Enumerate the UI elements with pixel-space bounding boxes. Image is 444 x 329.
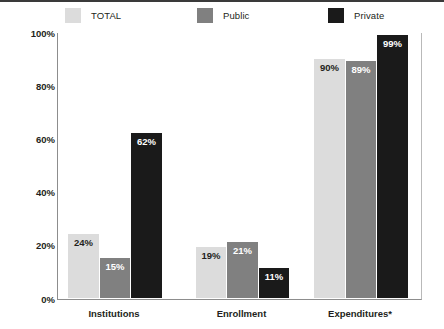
y-tick-label: 0% [0, 293, 55, 304]
legend-label-public: Public [223, 10, 249, 21]
bar-public-enrollment: 21% [227, 242, 258, 298]
bar-value-label: 62% [131, 136, 162, 147]
legend-item-private: Private [328, 7, 384, 23]
legend-swatch-private-icon [328, 8, 344, 23]
bar-value-label: 89% [346, 64, 377, 75]
x-tick-label: Expenditures* [328, 308, 392, 319]
bar-total-institutions: 24% [68, 234, 99, 298]
legend-label-total: TOTAL [91, 10, 121, 21]
y-tick-label: 80% [0, 81, 55, 92]
chart-legend: TOTAL Public Private [65, 7, 365, 25]
legend-label-private: Private [354, 10, 384, 21]
x-tick-label: Enrollment [217, 308, 267, 319]
bar-value-label: 24% [68, 237, 99, 248]
bar-private-enrollment: 11% [259, 268, 290, 297]
bar-value-label: 11% [259, 271, 290, 282]
plot-area: 24%15%62%19%21%11%90%89%99% [57, 33, 422, 300]
y-tick-label: 40% [0, 187, 55, 198]
bar-value-label: 90% [314, 62, 345, 73]
y-tick-label: 20% [0, 240, 55, 251]
top-rule [0, 0, 444, 2]
bar-public-expenditures: 89% [346, 61, 377, 297]
bar-private-institutions: 62% [131, 133, 162, 298]
bar-total-expenditures: 90% [314, 59, 345, 298]
y-tick-label: 60% [0, 134, 55, 145]
bar-private-expenditures: 99% [377, 35, 408, 298]
y-tick-label: 100% [0, 28, 55, 39]
legend-swatch-total-icon [65, 8, 81, 23]
bar-value-label: 19% [196, 250, 227, 261]
legend-item-public: Public [197, 7, 249, 23]
x-tick-label: Institutions [88, 308, 139, 319]
bar-total-enrollment: 19% [196, 247, 227, 297]
bar-public-institutions: 15% [100, 258, 131, 298]
bar-value-label: 21% [227, 245, 258, 256]
legend-swatch-public-icon [197, 8, 213, 23]
bar-value-label: 99% [377, 38, 408, 49]
legend-item-total: TOTAL [65, 7, 121, 23]
bar-value-label: 15% [100, 261, 131, 272]
